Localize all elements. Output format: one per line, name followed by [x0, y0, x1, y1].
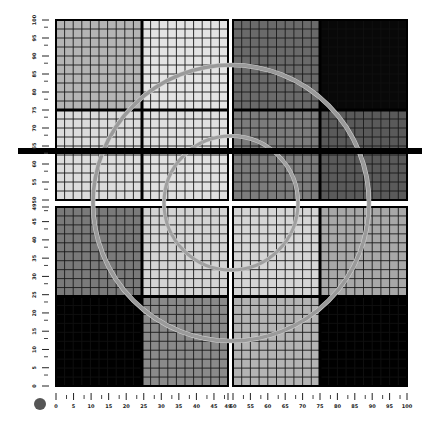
x-tick-label: 65 — [282, 403, 289, 409]
test-target-canvas: 1009590858075706560555049454035302520151… — [0, 0, 439, 422]
y-tick-label: 40 — [31, 236, 37, 243]
y-tick-label: 55 — [31, 178, 37, 185]
x-tick-label: 45 — [210, 403, 217, 409]
y-tick-label: 35 — [31, 254, 37, 261]
x-tick-label: 90 — [369, 403, 376, 409]
y-tick-label: 10 — [31, 345, 37, 352]
corner-dot-marker — [34, 398, 46, 410]
x-tick-label: 55 — [247, 403, 254, 409]
quadrant-bottom-right — [233, 207, 407, 386]
quadrant-top-right — [233, 20, 407, 200]
x-tick-label: 30 — [158, 403, 165, 409]
y-axis-ruler: 1009590858075706560555049454035302520151… — [31, 14, 49, 387]
x-tick-label: 70 — [299, 403, 306, 409]
y-tick-label: 85 — [31, 70, 37, 77]
quadrant-bottom-left — [56, 207, 228, 386]
y-tick-label: 49 — [31, 203, 37, 210]
quadrant-panels — [56, 20, 407, 386]
horizontal-black-bar — [18, 148, 422, 154]
x-tick-label: 40 — [193, 403, 200, 409]
y-tick-label: 100 — [31, 14, 37, 25]
x-axis-ruler: 0510152025303540454950556065707580859095… — [54, 393, 412, 409]
quadrant-top-left — [56, 20, 228, 200]
y-tick-label: 70 — [31, 124, 37, 131]
outer-ring — [93, 65, 369, 341]
inner-ring — [164, 136, 298, 270]
x-tick-label: 5 — [72, 403, 76, 409]
y-tick-label: 80 — [31, 88, 37, 95]
y-tick-label: 60 — [31, 160, 37, 167]
y-tick-label: 50 — [31, 196, 37, 203]
x-tick-label: 0 — [54, 403, 58, 409]
y-tick-label: 95 — [31, 34, 37, 41]
x-tick-label: 100 — [402, 403, 413, 409]
x-tick-label: 60 — [264, 403, 271, 409]
y-tick-label: 15 — [31, 327, 37, 334]
x-tick-label: 95 — [386, 403, 393, 409]
y-tick-label: 5 — [31, 365, 37, 369]
y-tick-label: 0 — [31, 384, 37, 388]
x-tick-label: 80 — [334, 403, 341, 409]
y-tick-label: 25 — [31, 291, 37, 298]
x-tick-label: 15 — [105, 403, 112, 409]
y-tick-label: 45 — [31, 218, 37, 225]
x-tick-label: 85 — [351, 403, 358, 409]
y-tick-label: 75 — [31, 106, 37, 113]
x-tick-label: 10 — [88, 403, 95, 409]
x-tick-label: 75 — [317, 403, 324, 409]
concentric-rings — [93, 65, 369, 341]
y-tick-label: 65 — [31, 142, 37, 149]
y-tick-label: 90 — [31, 52, 37, 59]
y-tick-label: 20 — [31, 309, 37, 316]
x-tick-label: 25 — [140, 403, 147, 409]
x-tick-label: 20 — [123, 403, 130, 409]
x-tick-label: 50 — [230, 403, 237, 409]
y-tick-label: 30 — [31, 272, 37, 279]
x-tick-label: 35 — [175, 403, 182, 409]
